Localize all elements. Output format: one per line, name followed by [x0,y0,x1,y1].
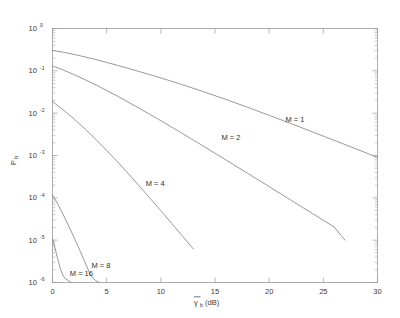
curve-label-m4: M = 4 [146,179,165,188]
y-tick-label-base: 10 [29,66,37,75]
x-tick-label: 30 [373,287,381,296]
y-tick-label-exponent: -1 [40,65,45,71]
y-tick-label-exponent: -6 [40,276,45,282]
chart-plot: 10010-110-210-310-410-510-6 051015202530… [0,0,400,318]
y-tick-label-exponent: -2 [40,107,45,113]
y-tick-label-exponent: -4 [40,192,45,198]
x-tick-label: 20 [265,287,273,296]
y-tick-label-exponent: -5 [40,234,45,240]
curve-label-m16: M = 16 [70,269,93,278]
y-tick-label-base: 10 [29,193,37,202]
curve-label-m1: M = 1 [285,115,304,124]
x-axis-title-sub: b [200,302,203,308]
x-tick-label: 15 [211,287,219,296]
x-tick-label: 0 [50,287,54,296]
x-tick-label: 5 [105,287,109,296]
y-tick-label-base: 10 [29,236,37,245]
x-axis-title-main: γ [194,298,198,307]
x-axis-title-unit: (dB) [205,298,220,307]
y-tick-label-exponent: 0 [40,22,43,28]
y-tick-label-base: 10 [29,109,37,118]
y-axis-title-main: P [9,160,18,165]
x-tick-label: 10 [157,287,165,296]
figure-canvas: 10010-110-210-310-410-510-6 051015202530… [0,0,400,318]
y-tick-label-exponent: -3 [40,149,45,155]
x-tick-label: 25 [319,287,327,296]
figure-background [0,0,400,318]
y-tick-label-base: 10 [29,151,37,160]
curve-label-m8: M = 8 [92,261,111,270]
y-tick-label-base: 10 [29,24,37,33]
curve-label-m2: M = 2 [222,133,241,142]
y-tick-label-base: 10 [29,278,37,287]
y-axis-title-sub: b [13,156,19,159]
